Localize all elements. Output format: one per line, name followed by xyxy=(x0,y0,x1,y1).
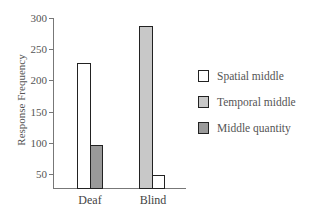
y-tick-label: 200 xyxy=(14,74,47,86)
y-tick-label: 300 xyxy=(14,12,47,24)
bar-blind-spatial-middle xyxy=(152,175,165,189)
legend-label: Spatial middle xyxy=(217,70,284,82)
legend-item-spatial-middle: Spatial middle xyxy=(198,69,284,83)
y-tick-label: 250 xyxy=(14,43,47,55)
y-tick-label: 150 xyxy=(14,106,47,118)
legend-label: Middle quantity xyxy=(217,122,291,134)
y-tick xyxy=(49,80,53,81)
y-tick-label: 100 xyxy=(14,137,47,149)
bar-chart: Response Frequency 300 250 200 150 100 5… xyxy=(0,0,312,212)
y-tick xyxy=(49,112,53,113)
y-axis-line xyxy=(53,18,54,189)
bar-blind-temporal-middle xyxy=(139,26,153,189)
y-tick xyxy=(49,174,53,175)
x-axis-line xyxy=(53,188,186,189)
legend-item-temporal-middle: Temporal middle xyxy=(198,95,296,109)
legend-swatch-white xyxy=(198,70,209,82)
y-tick xyxy=(49,143,53,144)
bar-deaf-spatial-middle xyxy=(77,63,91,189)
y-tick-label: 50 xyxy=(14,168,47,180)
legend-label: Temporal middle xyxy=(217,96,296,108)
legend-swatch-light-gray xyxy=(198,96,209,108)
legend-item-middle-quantity: Middle quantity xyxy=(198,121,291,135)
bar-deaf-middle-quantity xyxy=(90,145,103,189)
y-tick xyxy=(49,49,53,50)
x-category-label-deaf: Deaf xyxy=(65,193,115,208)
y-tick xyxy=(49,18,53,19)
legend-swatch-dark-gray xyxy=(198,122,209,134)
x-category-label-blind: Blind xyxy=(128,193,178,208)
